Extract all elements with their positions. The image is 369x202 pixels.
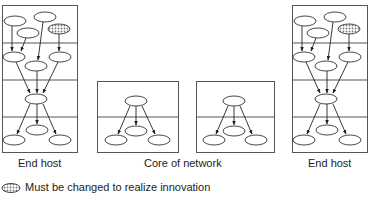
network-architecture-diagram (0, 0, 369, 202)
core-router-2 (197, 82, 275, 153)
legend-text: Must be changed to realize innovation (25, 181, 210, 193)
core-router-1 (98, 82, 179, 153)
right-host-label: End host (308, 157, 351, 169)
dotted-ellipse-icon (2, 184, 20, 193)
changed-node (48, 24, 70, 34)
left-end-host-stack (3, 6, 78, 153)
core-label: Core of network (144, 157, 222, 169)
changed-node (338, 24, 360, 34)
right-end-host-stack (293, 6, 368, 153)
left-host-label: End host (18, 157, 61, 169)
